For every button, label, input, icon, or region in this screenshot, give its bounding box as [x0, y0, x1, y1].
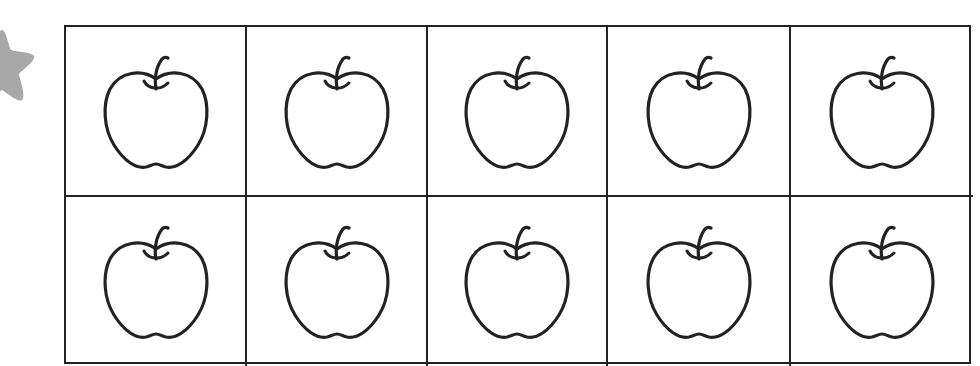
cell-label: apple: [608, 27, 609, 28]
ten-frame-cell: apple: [247, 27, 428, 197]
cell-label: apple: [608, 197, 609, 198]
ten-frame-cell: apple: [791, 197, 973, 366]
cell-label: apple: [791, 197, 792, 198]
cell-label: apple: [66, 27, 67, 28]
star-icon: [0, 26, 38, 104]
cell-label: apple: [428, 27, 429, 28]
ten-frame-cell: apple: [791, 27, 973, 197]
ten-frame-cell: apple: [428, 197, 608, 366]
cell-label: apple: [247, 197, 248, 198]
cell-label: apple: [428, 197, 429, 198]
ten-frame-cell: apple: [66, 197, 247, 366]
ten-frame-cell: apple: [428, 27, 608, 197]
ten-frame-cell: apple: [66, 27, 247, 197]
ten-frame-grid: appleappleappleappleappleappleappleapple…: [64, 25, 971, 364]
cell-label: apple: [791, 27, 792, 28]
ten-frame-cell: apple: [608, 197, 791, 366]
ten-frame-cell: apple: [247, 197, 428, 366]
ten-frame-cell: apple: [608, 27, 791, 197]
cell-label: apple: [66, 197, 67, 198]
cell-label: apple: [247, 27, 248, 28]
